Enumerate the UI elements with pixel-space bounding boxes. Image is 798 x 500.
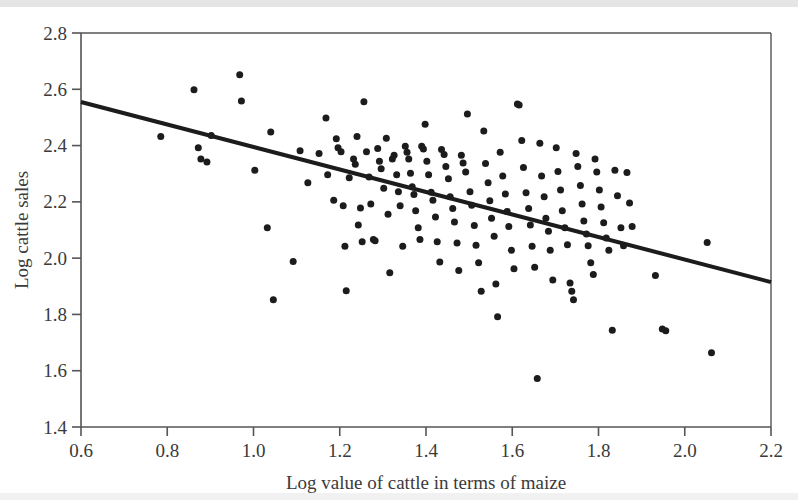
data-point bbox=[559, 207, 566, 214]
data-point bbox=[422, 121, 429, 128]
data-point bbox=[322, 114, 329, 121]
data-point bbox=[399, 243, 406, 250]
data-point bbox=[652, 272, 659, 279]
data-point bbox=[416, 236, 423, 243]
data-point bbox=[352, 161, 359, 168]
y-tick-label: 2.8 bbox=[43, 23, 67, 44]
data-point bbox=[195, 144, 202, 151]
data-point bbox=[360, 98, 367, 105]
data-point bbox=[523, 189, 530, 196]
data-point bbox=[564, 241, 571, 248]
data-point bbox=[402, 143, 409, 150]
data-point bbox=[304, 179, 311, 186]
x-tick-label: 1.8 bbox=[587, 440, 611, 461]
data-point bbox=[385, 211, 392, 218]
data-point bbox=[609, 327, 616, 334]
data-point bbox=[324, 171, 331, 178]
x-axis-label: Log value of cattle in terms of maize bbox=[286, 472, 566, 493]
data-point bbox=[587, 259, 594, 266]
x-tick-label: 0.8 bbox=[155, 440, 179, 461]
data-point bbox=[423, 158, 430, 165]
y-tick-label: 1.8 bbox=[43, 304, 67, 325]
data-point bbox=[502, 190, 509, 197]
x-tick-label: 2.2 bbox=[759, 440, 783, 461]
data-point bbox=[508, 247, 515, 254]
data-point bbox=[397, 202, 404, 209]
data-point bbox=[391, 152, 398, 159]
data-point bbox=[412, 207, 419, 214]
figure-container: 0.60.81.01.21.41.61.82.02.2 1.41.61.82.0… bbox=[0, 0, 798, 500]
data-point bbox=[270, 296, 277, 303]
data-point bbox=[157, 133, 164, 140]
data-point bbox=[491, 233, 498, 240]
data-point bbox=[553, 144, 560, 151]
fit-line bbox=[81, 102, 771, 282]
data-point bbox=[708, 349, 715, 356]
data-point bbox=[376, 158, 383, 165]
data-point bbox=[518, 137, 525, 144]
data-point bbox=[341, 243, 348, 250]
y-tick-label: 2.2 bbox=[43, 191, 67, 212]
data-point bbox=[662, 327, 669, 334]
data-point bbox=[536, 140, 543, 147]
data-point bbox=[592, 156, 599, 163]
data-point bbox=[473, 242, 480, 249]
data-point bbox=[316, 150, 323, 157]
y-tick-label: 2.0 bbox=[43, 248, 67, 269]
data-point bbox=[494, 313, 501, 320]
data-point bbox=[203, 158, 210, 165]
data-point bbox=[605, 247, 612, 254]
x-tick-label: 0.6 bbox=[69, 440, 93, 461]
data-point bbox=[475, 259, 482, 266]
data-point bbox=[629, 223, 636, 230]
data-point bbox=[557, 187, 564, 194]
x-tick-label: 1.2 bbox=[328, 440, 352, 461]
data-point bbox=[343, 287, 350, 294]
data-point bbox=[626, 199, 633, 206]
data-point bbox=[374, 145, 381, 152]
data-point bbox=[367, 201, 374, 208]
x-axis-ticks: 0.60.81.01.21.41.61.82.02.2 bbox=[69, 427, 783, 461]
data-point bbox=[577, 182, 584, 189]
data-point bbox=[383, 135, 390, 142]
y-axis-ticks: 1.41.61.82.02.22.42.62.8 bbox=[43, 23, 81, 438]
data-point bbox=[441, 151, 448, 158]
data-point bbox=[486, 197, 493, 204]
data-point bbox=[330, 197, 337, 204]
data-point bbox=[505, 223, 512, 230]
data-point bbox=[415, 224, 422, 231]
data-point bbox=[354, 133, 361, 140]
data-point bbox=[455, 267, 462, 274]
data-point bbox=[436, 259, 443, 266]
data-point bbox=[197, 156, 204, 163]
data-point bbox=[510, 265, 517, 272]
data-point bbox=[460, 160, 467, 167]
data-point bbox=[386, 269, 393, 276]
data-point bbox=[617, 224, 624, 231]
data-point bbox=[236, 71, 243, 78]
data-point bbox=[570, 296, 577, 303]
data-point bbox=[404, 149, 411, 156]
data-point bbox=[357, 205, 364, 212]
data-point bbox=[534, 375, 541, 382]
data-point bbox=[395, 188, 402, 195]
data-point bbox=[372, 237, 379, 244]
data-point bbox=[596, 187, 603, 194]
data-point bbox=[445, 175, 452, 182]
data-point bbox=[251, 167, 258, 174]
data-point bbox=[579, 201, 586, 208]
data-point bbox=[466, 188, 473, 195]
data-point bbox=[527, 221, 534, 228]
data-point bbox=[454, 239, 461, 246]
data-point bbox=[338, 148, 345, 155]
data-point bbox=[359, 238, 366, 245]
data-point bbox=[346, 174, 353, 181]
data-point bbox=[593, 169, 600, 176]
data-point bbox=[462, 169, 469, 176]
data-point bbox=[380, 185, 387, 192]
data-point bbox=[393, 171, 400, 178]
data-points bbox=[157, 71, 715, 382]
data-point bbox=[529, 243, 536, 250]
data-point bbox=[574, 163, 581, 170]
data-point bbox=[704, 239, 711, 246]
